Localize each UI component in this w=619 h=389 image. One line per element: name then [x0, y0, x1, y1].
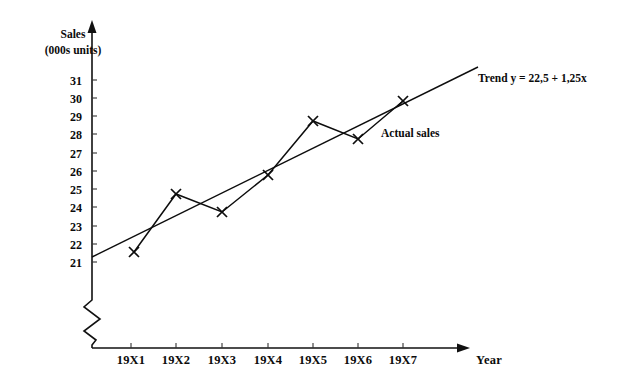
- x-tick-labels: 19X1 19X2 19X3 19X4 19X5 19X6 19X7: [117, 353, 418, 367]
- x-tick-label: 19X1: [117, 353, 146, 367]
- axis-titles: Sales (000s units) Year: [45, 28, 502, 367]
- y-tick-label: 27: [70, 147, 82, 161]
- data-point-marker: [129, 247, 139, 257]
- data-point-marker: [171, 189, 181, 199]
- y-tick-label: 31: [70, 74, 82, 88]
- y-tick-labels: 31 30 29 28 27 26 25 24 23 22 21: [70, 74, 82, 270]
- y-tick-label: 21: [70, 256, 82, 270]
- chart-annotations: Trend y = 22,5 + 1,25x Actual sales: [381, 72, 587, 139]
- y-tick-label: 28: [70, 128, 82, 142]
- x-tick-label: 19X7: [389, 353, 418, 367]
- y-axis-title-line2: (000s units): [45, 44, 102, 57]
- y-axis: [84, 20, 100, 348]
- x-tick-label: 19X5: [299, 353, 328, 367]
- y-axis-break-icon: [84, 290, 100, 348]
- x-tick-label: 19X2: [162, 353, 191, 367]
- y-tick-label: 26: [70, 165, 82, 179]
- data-point-marker: [263, 170, 273, 180]
- trend-equation-label: Trend y = 22,5 + 1,25x: [478, 72, 587, 85]
- y-tick-label: 25: [70, 183, 82, 197]
- x-tick-label: 19X4: [254, 353, 283, 367]
- y-tick-label: 30: [70, 92, 82, 106]
- sales-trend-chart: 31 30 29 28 27 26 25 24 23 22 21 19X1 19…: [0, 0, 619, 389]
- x-tick-label: 19X3: [208, 353, 237, 367]
- data-point-marker: [353, 134, 363, 144]
- x-axis-title: Year: [476, 353, 502, 367]
- data-point-marker: [217, 207, 227, 217]
- trend-line: [92, 67, 478, 257]
- chart-container: 31 30 29 28 27 26 25 24 23 22 21 19X1 19…: [0, 0, 619, 389]
- x-axis: [92, 344, 470, 353]
- x-tick-label: 19X6: [344, 353, 373, 367]
- actual-sales-label: Actual sales: [381, 127, 440, 139]
- y-tick-label: 29: [70, 110, 82, 124]
- data-point-marker: [308, 116, 318, 126]
- data-point-markers: [129, 96, 408, 257]
- x-axis-arrow-icon: [457, 344, 470, 353]
- y-tick-label: 24: [70, 201, 82, 215]
- y-tick-label: 22: [70, 238, 82, 252]
- y-axis-arrow-icon: [88, 20, 97, 33]
- y-tick-label: 23: [70, 220, 82, 234]
- y-axis-title-line1: Sales: [61, 28, 86, 40]
